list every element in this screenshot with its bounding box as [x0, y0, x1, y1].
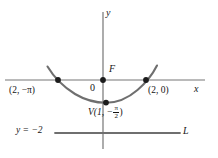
parabola-figure: y x 0 F (2, −π) (2, 0) V(1, − π 2 ) y = … [0, 0, 218, 158]
focus-point-dot [100, 77, 106, 83]
origin-label: 0 [90, 83, 95, 93]
focus-point-label: F [109, 64, 115, 74]
directrix-name-label: L [183, 126, 189, 136]
right-intercept-label: (2, 0) [148, 86, 169, 96]
y-axis-label: y [106, 8, 110, 18]
vertex-label-suffix: ) [119, 108, 122, 118]
vertex-label-prefix: V(1, − [88, 108, 113, 118]
left-intercept-label: (2, −π) [9, 86, 35, 96]
parabola-curve [48, 66, 158, 103]
left-intercept-dot [55, 77, 61, 83]
vertex-fraction: π 2 [113, 105, 119, 121]
vertex-fraction-denominator: 2 [113, 113, 119, 120]
vertex-point-label: V(1, − π 2 ) [88, 105, 123, 121]
x-axis-label: x [194, 84, 198, 94]
directrix-equation-label: y = −2 [16, 126, 43, 136]
right-intercept-dot [143, 77, 149, 83]
